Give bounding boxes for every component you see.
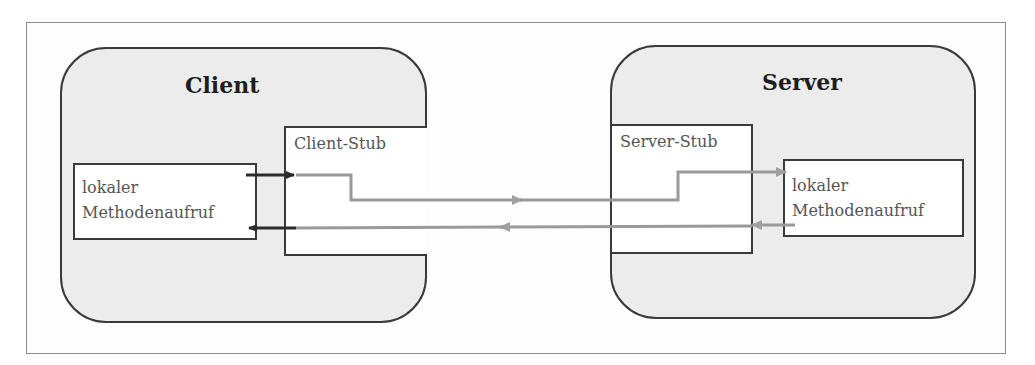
network-request-arrow-a [296, 175, 522, 200]
network-request-arrow-b [520, 172, 786, 200]
call-flow-arrows [0, 0, 1035, 365]
network-response-line [296, 227, 505, 228]
network-response-arrow [500, 226, 752, 227]
